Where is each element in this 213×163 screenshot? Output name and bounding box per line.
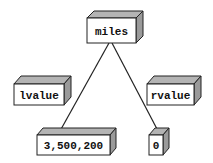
node-rvalue-tag: rvalue [147,76,201,105]
node-label: lvalue [19,90,59,102]
node-lvalue-value: 3,500,200 [37,128,116,155]
node-label: 0 [153,140,160,152]
node-miles: miles [87,11,143,43]
node-label: rvalue [151,90,191,102]
node-label: 3,500,200 [44,140,103,152]
lvalue-rvalue-diagram: miles lvalue rvalue 3,500,200 0 [0,0,213,163]
node-lvalue-tag: lvalue [14,76,71,105]
node-label: miles [95,26,128,38]
node-rvalue-value: 0 [149,128,169,155]
